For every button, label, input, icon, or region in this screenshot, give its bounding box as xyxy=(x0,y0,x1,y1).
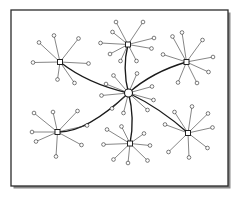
leaf-node xyxy=(99,41,103,45)
leaf-node xyxy=(148,144,152,148)
leaf-node xyxy=(195,81,199,85)
leaf-node xyxy=(135,59,139,63)
leaf-node xyxy=(76,109,80,113)
leaf-node xyxy=(51,110,55,114)
leaf-node xyxy=(31,61,35,65)
leaf-node xyxy=(87,62,91,66)
leaf-node xyxy=(114,20,118,24)
leaf-node xyxy=(37,41,41,45)
leaf-node xyxy=(211,55,215,59)
leaf-node xyxy=(150,85,154,89)
leaf-node xyxy=(100,94,104,98)
leaf-node xyxy=(85,124,89,128)
hub-node xyxy=(186,131,191,136)
leaf-node xyxy=(173,110,177,114)
figure-root xyxy=(0,0,238,200)
leaf-node xyxy=(152,36,156,40)
leaf-node xyxy=(135,72,139,76)
hub-node xyxy=(55,130,60,135)
leaf-node xyxy=(161,53,165,57)
leaf-node xyxy=(187,156,191,160)
leaf-node xyxy=(146,159,150,163)
leaf-node xyxy=(206,112,210,116)
core-node xyxy=(125,89,133,97)
leaf-node xyxy=(207,70,211,74)
leaf-node xyxy=(152,98,156,102)
leaf-node xyxy=(142,132,146,136)
frame-layer xyxy=(11,10,228,186)
leaf-node xyxy=(104,82,108,86)
figure-border xyxy=(11,10,228,186)
leaf-node xyxy=(150,47,154,51)
leaf-node xyxy=(108,52,112,56)
leaf-node xyxy=(171,35,175,39)
leaf-node xyxy=(56,78,60,82)
leaf-node xyxy=(102,143,106,147)
leaf-node xyxy=(77,37,81,41)
leaf-node xyxy=(126,161,130,165)
hub-node xyxy=(128,141,133,146)
leaf-node xyxy=(112,158,116,162)
leaf-node xyxy=(141,20,145,24)
leaf-node xyxy=(30,130,34,134)
leaf-node xyxy=(73,81,77,85)
hub-node xyxy=(184,60,189,65)
leaf-node xyxy=(163,123,167,127)
leaf-node xyxy=(146,108,150,112)
hub-node xyxy=(58,60,63,65)
network-topology-diagram xyxy=(0,0,238,200)
leaf-node xyxy=(122,111,126,115)
leaf-node xyxy=(32,111,36,115)
leaf-node xyxy=(206,146,210,150)
leaf-node xyxy=(119,59,123,63)
leaf-node xyxy=(211,126,215,130)
leaf-node xyxy=(167,150,171,154)
leaf-node xyxy=(112,74,116,78)
leaf-node xyxy=(34,140,38,144)
leaf-node xyxy=(190,105,194,109)
leaf-node xyxy=(80,143,84,147)
leaf-node xyxy=(110,107,114,111)
leaf-node xyxy=(111,30,115,34)
leaf-node xyxy=(176,81,180,85)
leaf-node xyxy=(180,31,184,35)
leaf-node xyxy=(120,125,124,129)
leaf-node xyxy=(54,155,58,159)
leaf-node xyxy=(105,128,109,132)
core-node-layer xyxy=(125,89,133,97)
leaf-node xyxy=(201,38,205,42)
leaf-node xyxy=(52,34,56,38)
hub-node xyxy=(126,42,131,47)
